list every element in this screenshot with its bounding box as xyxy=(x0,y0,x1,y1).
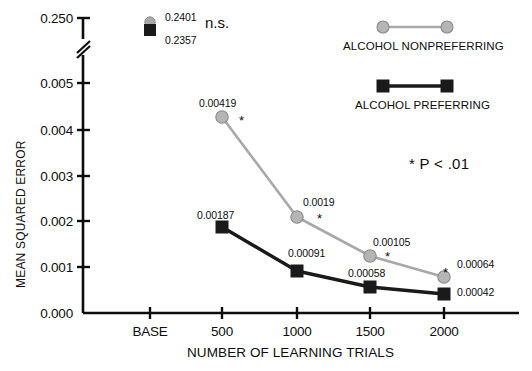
legend-swatch-nonpreferring xyxy=(377,21,453,33)
datapoint-nonpreferring-500 xyxy=(216,111,228,123)
legend-label-preferring: ALCOHOL PREFERRING xyxy=(355,99,490,111)
xtick-label-2000: 2000 xyxy=(404,324,484,339)
xtick-label-500: 500 xyxy=(182,324,262,339)
value-label-nonpreferring-1000: 0.0019 xyxy=(303,196,335,208)
x-axis-title: NUMBER OF LEARNING TRIALS xyxy=(187,345,394,360)
chart-figure: 0.250 0.005 0.004 0.003 0.002 0.001 0.00… xyxy=(0,0,532,371)
xtick-label-1000: 1000 xyxy=(257,324,337,339)
datapoint-preferring-500 xyxy=(216,221,229,234)
value-label-preferring-base: 0.2357 xyxy=(165,34,197,46)
legend-label-nonpreferring: ALCOHOL NONPREFERRING xyxy=(343,40,504,52)
datapoint-preferring-base xyxy=(144,24,156,36)
datapoint-nonpreferring-1500 xyxy=(364,250,376,262)
significance-star-1500: * xyxy=(385,250,390,263)
xtick-label-1500: 1500 xyxy=(330,324,410,339)
datapoint-preferring-1000 xyxy=(291,265,304,278)
annotation-not-significant: n.s. xyxy=(205,14,229,31)
value-label-preferring-500: 0.00187 xyxy=(197,209,234,221)
significance-star-500: * xyxy=(239,114,244,127)
ytick-label-0004: 0.004 xyxy=(18,123,73,138)
datapoint-preferring-1500 xyxy=(364,281,377,294)
legend-swatch-preferring xyxy=(377,80,454,93)
ytick-label-0005: 0.005 xyxy=(18,76,73,91)
significance-star-1000: * xyxy=(317,212,322,225)
annotation-p-value: * P < .01 xyxy=(409,155,469,172)
chart-plot-area xyxy=(0,0,532,371)
ytick-label-0250: 0.250 xyxy=(18,11,73,26)
value-label-nonpreferring-1500: 0.00105 xyxy=(373,236,410,248)
ytick-label-0000: 0.000 xyxy=(18,306,73,321)
value-label-nonpreferring-500: 0.00419 xyxy=(199,97,236,109)
datapoint-preferring-2000 xyxy=(438,288,451,301)
xtick-label-base: BASE xyxy=(110,324,190,339)
value-label-preferring-2000: 0.00042 xyxy=(457,286,494,298)
y-axis-title: MEAN SQUARED ERROR xyxy=(14,140,28,288)
value-label-nonpreferring-base: 0.2401 xyxy=(165,11,197,23)
datapoint-nonpreferring-1000 xyxy=(291,211,303,223)
value-label-nonpreferring-2000: 0.00064 xyxy=(457,258,494,270)
value-label-preferring-1000: 0.00091 xyxy=(288,247,325,259)
value-label-preferring-1500: 0.00058 xyxy=(348,267,385,279)
significance-star-2000: * xyxy=(443,266,448,279)
